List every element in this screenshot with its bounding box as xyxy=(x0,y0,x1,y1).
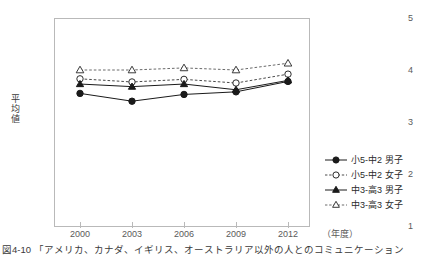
y-tick-1-label: 1 xyxy=(408,221,422,232)
y-tick-1: 1 xyxy=(368,221,422,232)
x-tick-2003-mark xyxy=(132,222,133,228)
legend-item-2[interactable]: 中3-高3 男子 xyxy=(324,182,420,197)
y-tick-3: 3 xyxy=(368,117,422,128)
x-tick-2000-label: 2000 xyxy=(70,229,90,239)
x-tick-2009-mark xyxy=(236,222,237,228)
legend-label-0: 小5-中2 男子 xyxy=(348,153,403,167)
y-tick-4: 4 xyxy=(368,65,422,76)
x-tick-2009-label: 2009 xyxy=(226,229,246,239)
x-tick-2000: 2000 xyxy=(54,228,106,240)
legend: 小5-中2 男子 小5-中2 女子 中3-高3 男子 xyxy=(324,152,420,212)
x-tick-2000-mark xyxy=(80,222,81,228)
legend-label-1: 小5-中2 女子 xyxy=(348,168,403,182)
x-tick-2006: 2006 xyxy=(158,228,210,240)
plot-area xyxy=(54,18,310,227)
x-tick-2006-mark xyxy=(184,222,185,228)
legend-key-filled-triangle-icon xyxy=(324,183,348,197)
x-tick-2003-label: 2003 xyxy=(122,229,142,239)
x-tick-2012-label: 2012 xyxy=(278,229,298,239)
y-tick-4-label: 4 xyxy=(408,65,422,76)
legend-label-3: 中3-高3 女子 xyxy=(348,198,403,212)
figure-caption: 図4-10 「アメリカ、カナダ、イギリス、オーストラリア以外の人とのコミュニケー… xyxy=(2,244,422,256)
legend-item-1[interactable]: 小5-中2 女子 xyxy=(324,167,420,182)
legend-key-open-circle-icon xyxy=(324,168,348,182)
y-axis-label-char-2: 均 xyxy=(8,104,22,114)
x-tick-2012-mark xyxy=(288,222,289,228)
x-tick-2003: 2003 xyxy=(106,228,158,240)
legend-key-filled-circle-icon xyxy=(324,153,348,167)
x-tick-2012: 2012 xyxy=(262,228,314,240)
y-tick-5: 5 xyxy=(368,13,422,24)
y-axis-label-char-1: 平 xyxy=(8,94,22,104)
legend-item-3[interactable]: 中3-高3 女子 xyxy=(324,197,420,212)
legend-item-0[interactable]: 小5-中2 男子 xyxy=(324,152,420,167)
figure-root: 平 均 値 5 4 3 2 1 2000 2003 2006 2009 2012… xyxy=(0,0,422,257)
x-tick-2006-label: 2006 xyxy=(174,229,194,239)
y-tick-5-label: 5 xyxy=(408,13,422,24)
x-axis-unit-label: （年度） xyxy=(322,228,358,240)
x-tick-2009: 2009 xyxy=(210,228,262,240)
y-axis-label: 平 均 値 xyxy=(8,94,22,124)
legend-label-2: 中3-高3 男子 xyxy=(348,183,403,197)
y-axis-label-char-3: 値 xyxy=(8,114,22,124)
y-tick-3-label: 3 xyxy=(408,117,422,128)
legend-key-open-triangle-icon xyxy=(324,198,348,212)
